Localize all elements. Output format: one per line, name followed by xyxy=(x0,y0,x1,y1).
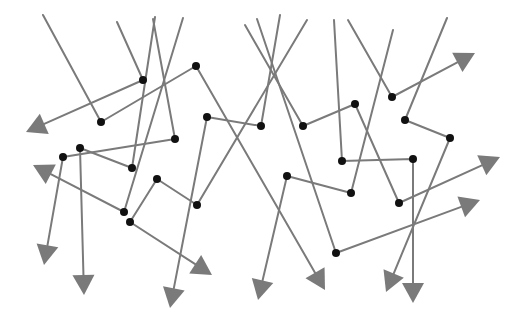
random-walk-diagram xyxy=(0,0,529,321)
waypoint-node xyxy=(76,144,84,152)
arrowhead-icon xyxy=(37,243,59,265)
arrowhead-icon xyxy=(305,267,325,290)
path-line-p13 xyxy=(263,30,393,281)
waypoint-node xyxy=(332,249,340,257)
waypoint-node xyxy=(351,100,359,108)
waypoint-node xyxy=(192,62,200,70)
waypoint-node xyxy=(126,218,134,226)
arrowheads xyxy=(26,53,500,308)
waypoint-node xyxy=(203,113,211,121)
path-line-p10 xyxy=(334,20,413,283)
waypoint-node xyxy=(388,93,396,101)
waypoint-node xyxy=(283,172,291,180)
waypoint-node xyxy=(347,189,355,197)
path-segments xyxy=(43,15,482,288)
waypoint-node xyxy=(338,157,346,165)
arrowhead-icon xyxy=(163,286,185,308)
waypoint-node xyxy=(139,76,147,84)
arrowhead-icon xyxy=(402,283,424,303)
waypoint-node xyxy=(409,155,417,163)
path-line-p8 xyxy=(245,25,482,203)
waypoint-node xyxy=(401,116,409,124)
waypoint-node xyxy=(153,175,161,183)
path-line-p7 xyxy=(174,15,280,288)
waypoint-node xyxy=(97,118,105,126)
path-line-p12 xyxy=(394,18,450,274)
waypoint-node xyxy=(120,208,128,216)
waypoint-node xyxy=(299,122,307,130)
waypoint-node xyxy=(446,134,454,142)
waypoint-node xyxy=(193,201,201,209)
waypoint-node xyxy=(128,164,136,172)
waypoint-node xyxy=(257,122,265,130)
waypoint-node xyxy=(171,135,179,143)
arrowhead-icon xyxy=(252,278,273,300)
arrowhead-icon xyxy=(72,275,94,295)
arrowhead-icon xyxy=(189,255,212,275)
waypoint-node xyxy=(59,153,67,161)
path-line-p4 xyxy=(47,19,175,245)
waypoint-node xyxy=(395,199,403,207)
